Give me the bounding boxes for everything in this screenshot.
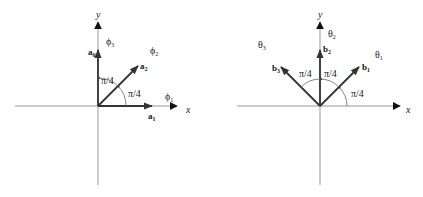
angle-label-lower: π/4 <box>128 88 141 99</box>
angle-arc-2 <box>320 79 339 87</box>
angle-arc-1 <box>339 87 347 106</box>
left-diagram: x y a1 a2 a0 ϕ1 ϕ2 ϕ3 π/4 π/4 <box>15 9 191 185</box>
right-diagram: x y b1 b2 b3 θ1 θ2 θ3 π/4 π/4 π/4 <box>237 9 411 185</box>
label-a2: a2 <box>140 61 148 72</box>
y-axis-label: y <box>95 9 101 20</box>
angle-arc-1 <box>118 86 126 106</box>
label-phi1: ϕ1 <box>165 91 173 103</box>
label-b3: b3 <box>272 63 280 74</box>
x-axis-label: x <box>185 104 191 115</box>
label-theta2: θ2 <box>328 28 336 40</box>
angle-label-mid: π/4 <box>324 68 337 79</box>
x-axis-label: x <box>405 104 411 115</box>
label-theta3: θ3 <box>258 39 266 51</box>
angle-arc-3 <box>301 79 320 87</box>
angle-label-upper: π/4 <box>101 75 114 86</box>
angle-label-lower: π/4 <box>351 88 364 99</box>
angle-label-left: π/4 <box>299 68 312 79</box>
y-axis-label: y <box>317 9 323 20</box>
label-a0: a0 <box>88 47 96 58</box>
label-a1: a1 <box>148 111 156 122</box>
label-phi3: ϕ3 <box>106 36 114 48</box>
diagram-canvas: x y a1 a2 a0 ϕ1 ϕ2 ϕ3 π/4 π/4 x y b1 b2 … <box>0 0 423 197</box>
label-b1: b1 <box>362 62 370 73</box>
label-theta1: θ1 <box>375 49 383 61</box>
label-b2: b2 <box>323 44 331 55</box>
label-phi2: ϕ2 <box>150 45 158 57</box>
